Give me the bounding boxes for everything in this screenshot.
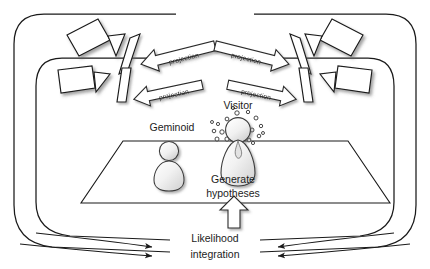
projection-arrow-top-right: projection: [212, 35, 291, 75]
projection-arrow-bottom-left: projection: [132, 75, 205, 109]
likelihood-up-arrow: [220, 196, 248, 228]
camera-bottom-right: [320, 66, 372, 93]
projection-arrow-top-left: projection: [138, 35, 217, 75]
diagram-canvas: projection projection projection project…: [0, 0, 430, 269]
feedback-outer-left-arrow: [36, 233, 152, 247]
generate-hypotheses-label-line1: Generate: [211, 173, 255, 185]
camera-bottom-left: [58, 66, 110, 93]
feedback-outer-right-arrow: [278, 233, 394, 247]
camera-top-right: [305, 19, 363, 56]
camera-top-left: [67, 19, 125, 56]
likelihood-integration-label-line2: integration: [190, 248, 239, 260]
geminoid-label: Geminoid: [150, 121, 195, 133]
geminoid-figure: [154, 141, 184, 191]
visitor-label: Visitor: [224, 99, 253, 111]
inner-loop-left: [36, 58, 170, 240]
likelihood-integration-label-line1: Likelihood: [191, 232, 238, 244]
inner-loop-right: [260, 58, 394, 240]
